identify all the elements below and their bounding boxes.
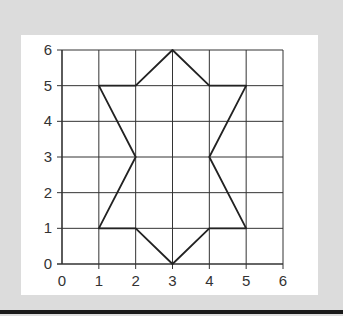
y-tick-label: 1 — [44, 219, 52, 236]
y-tick-label: 0 — [44, 255, 52, 272]
polygon-grid-chart: 01234560123456 — [0, 0, 343, 316]
x-tick-label: 2 — [131, 272, 139, 289]
x-tick-label: 0 — [58, 272, 66, 289]
y-tick-label: 5 — [44, 77, 52, 94]
x-tick-label: 3 — [168, 272, 176, 289]
x-tick-label: 6 — [279, 272, 287, 289]
bottom-rule — [0, 310, 343, 314]
x-tick-label: 5 — [242, 272, 250, 289]
x-tick-label: 4 — [205, 272, 213, 289]
y-tick-label: 4 — [44, 112, 52, 129]
y-tick-label: 6 — [44, 41, 52, 58]
y-tick-label: 3 — [44, 148, 52, 165]
y-tick-label: 2 — [44, 184, 52, 201]
x-tick-label: 1 — [95, 272, 103, 289]
